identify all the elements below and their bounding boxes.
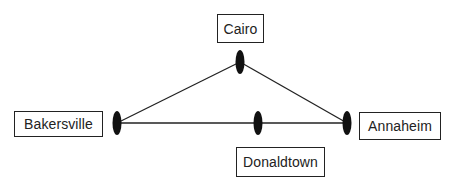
label-donaldtown: Donaldtown [236,147,325,177]
label-cairo: Cairo [217,14,264,43]
node-donaldtown [254,111,263,135]
label-annaheim: Annaheim [359,112,441,140]
node-annaheim [343,111,352,135]
node-bakersville [113,111,122,135]
label-bakersville: Bakersville [14,111,103,137]
edge-bakersville-cairo [117,62,240,123]
node-cairo [236,50,245,74]
